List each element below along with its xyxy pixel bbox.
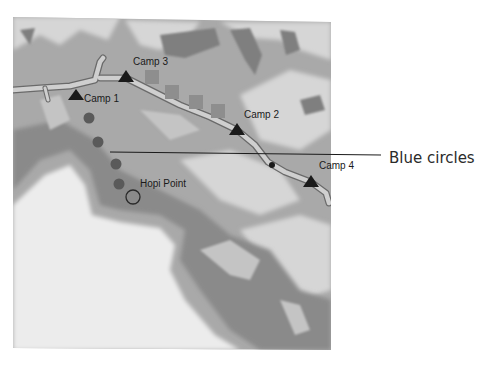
camp-3-label: Camp 3: [133, 56, 168, 67]
blue-circles-callout: Blue circles: [389, 149, 475, 167]
camp-1-label: Camp 1: [84, 93, 119, 104]
river-point-marker: [269, 162, 275, 168]
camp-4-label: Camp 4: [319, 160, 354, 171]
hopi-point-marker[interactable]: [126, 190, 140, 204]
map-canvas: [0, 0, 496, 365]
camp-2-label: Camp 2: [244, 109, 279, 120]
hopi-point-label: Hopi Point: [140, 178, 186, 189]
